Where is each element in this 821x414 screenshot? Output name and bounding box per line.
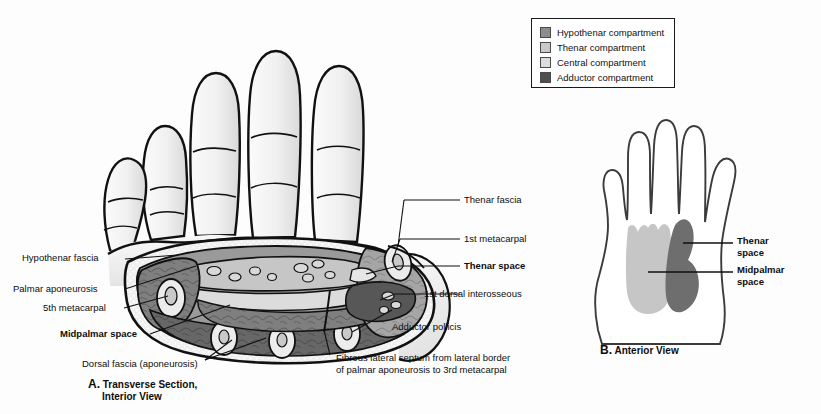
legend-item-hypothenar: Hypothenar compartment xyxy=(540,25,674,39)
label-b-midpalmar-space-line1: Midpalmar xyxy=(737,264,785,276)
label-palmar-aponeurosis: Palmar aponeurosis xyxy=(13,283,98,295)
label-adductor-pollicis: Adductor pollicis xyxy=(392,321,461,333)
compartment-legend: Hypothenar compartment Thenar compartmen… xyxy=(531,18,675,88)
panel-b-caption-letter: B. xyxy=(600,343,612,357)
legend-swatch-hypothenar xyxy=(540,27,551,38)
label-hypothenar-fascia: Hypothenar fascia xyxy=(22,252,99,264)
label-fibrous-septum-line2: of palmar aponeurosis to 3rd metacarpal xyxy=(336,364,507,376)
panel-a-caption-line2: Interior View xyxy=(102,391,162,403)
figure-canvas: Hypothenar compartment Thenar compartmen… xyxy=(0,0,821,414)
label-b-midpalmar-space-line2: space xyxy=(737,276,764,288)
legend-item-central: Central compartment xyxy=(540,55,674,69)
panel-a-caption: A. Transverse Section, Interior View xyxy=(88,378,197,403)
label-5th-metacarpal: 5th metacarpal xyxy=(43,302,106,314)
legend-label-thenar: Thenar compartment xyxy=(557,42,645,53)
legend-swatch-thenar xyxy=(540,42,551,53)
panel-b-hand xyxy=(595,120,735,344)
label-1st-metacarpal: 1st metacarpal xyxy=(464,233,526,245)
label-b-thenar-space-line2: space xyxy=(737,247,764,259)
legend-swatch-central xyxy=(540,57,551,68)
panel-b-caption: B. Anterior View xyxy=(600,344,679,357)
legend-item-adductor: Adductor compartment xyxy=(540,70,674,84)
panel-a-caption-letter: A. xyxy=(88,377,100,391)
label-thenar-fascia: Thenar fascia xyxy=(464,194,522,206)
legend-swatch-adductor xyxy=(540,72,551,83)
legend-item-thenar: Thenar compartment xyxy=(540,40,674,54)
label-midpalmar-space: Midpalmar space xyxy=(60,328,137,340)
panel-a-caption-line1: Transverse Section, xyxy=(103,379,198,390)
label-fibrous-septum-line1: Fibrous lateral septum from lateral bord… xyxy=(336,352,510,364)
legend-label-hypothenar: Hypothenar compartment xyxy=(557,27,664,38)
label-1st-dorsal-interosseous: 1st dorsal interosseous xyxy=(424,288,522,300)
label-b-thenar-space-line1: Thenar xyxy=(737,235,769,247)
legend-label-adductor: Adductor compartment xyxy=(557,72,653,83)
panel-b-caption-text: Anterior View xyxy=(614,345,678,356)
label-thenar-space: Thenar space xyxy=(464,260,525,272)
label-dorsal-fascia: Dorsal fascia (aponeurosis) xyxy=(82,358,198,370)
legend-label-central: Central compartment xyxy=(557,57,646,68)
panel-a-cross-section xyxy=(125,238,434,363)
